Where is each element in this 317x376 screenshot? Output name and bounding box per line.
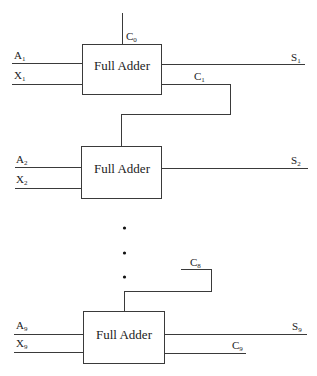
ripple-carry-adder-diagram: C0 Full Adder A1 X1 S1 C1 Full Adder A2 … — [0, 0, 317, 376]
full-adder-2-label: Full Adder — [94, 161, 151, 176]
ellipsis-dot-3 — [123, 275, 126, 278]
input-label-x9: X9 — [16, 337, 28, 351]
input-label-a9: A9 — [16, 319, 28, 333]
full-adder-9-label: Full Adder — [96, 327, 153, 342]
carry-in-label-c0: C0 — [126, 30, 137, 44]
input-label-x2: X2 — [16, 173, 28, 187]
full-adder-1-label: Full Adder — [94, 58, 151, 73]
stage-1: C0 Full Adder A1 X1 S1 C1 — [12, 13, 305, 146]
ellipsis-dot-1 — [123, 226, 126, 229]
carry-out-label-c1: C1 — [194, 70, 205, 84]
sum-label-s2: S2 — [291, 154, 301, 168]
input-label-x1: X1 — [14, 69, 26, 83]
input-label-a1: A1 — [14, 49, 26, 63]
sum-label-s9: S9 — [292, 320, 302, 334]
stage-2: Full Adder A2 X2 S2 — [15, 147, 308, 199]
stage-9: C8 Full Adder A9 X9 S9 C9 — [14, 256, 307, 364]
sum-label-s1: S1 — [291, 51, 301, 65]
ellipsis-dots — [123, 226, 126, 278]
carry-out-label-c9: C9 — [232, 339, 243, 353]
ellipsis-dot-2 — [123, 251, 126, 254]
carry-wire-c8 — [125, 270, 212, 312]
carry-in-label-c8: C8 — [190, 256, 201, 270]
input-label-a2: A2 — [16, 153, 28, 167]
